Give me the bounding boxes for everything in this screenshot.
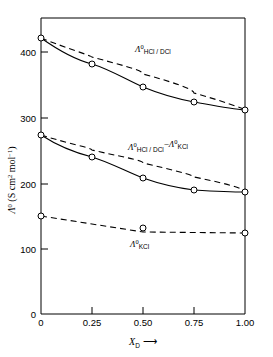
conductivity-plot: 400 300 200 100 0 0 0.25 0.50 0.75 1.00 …	[0, 0, 273, 357]
plot-frame	[41, 18, 245, 314]
y-tick-label-300: 300	[20, 113, 36, 124]
data-point-marker	[38, 132, 44, 138]
data-point-marker	[242, 189, 248, 195]
annotation-kcl: Λ0KCl	[129, 238, 150, 250]
x-tick-label-100: 1.00	[236, 317, 255, 328]
y-axis-unit-mid: mol	[6, 157, 17, 175]
y-axis-title: Λ0 (S cm2 mol−1)	[6, 147, 19, 215]
y-axis-unit-sup2: −1	[6, 150, 13, 157]
data-point-marker	[140, 225, 146, 231]
data-point-marker	[140, 84, 146, 90]
series-difference-ideal	[41, 135, 245, 192]
x-tick-label-0: 0	[38, 317, 43, 328]
difference-ideal-line	[41, 135, 245, 192]
svg-text:Λ0HCl / DCl−Λ0KCl: Λ0HCl / DCl−Λ0KCl	[127, 138, 189, 153]
y-tick-labels: 400 300 200 100 0	[20, 47, 36, 320]
data-point-marker	[89, 61, 95, 67]
x-axis-arrow: ⟶	[143, 336, 157, 347]
annot2-subscript: HCl / DCl	[137, 146, 165, 153]
data-point-marker	[38, 35, 44, 41]
x-axis-subscript: D	[135, 342, 140, 349]
chart-figure: 400 300 200 100 0 0 0.25 0.50 0.75 1.00 …	[0, 0, 273, 357]
x-tick-label-025: 0.25	[83, 317, 102, 328]
y-tick-label-100: 100	[20, 244, 36, 255]
data-point-marker	[191, 99, 197, 105]
annot2-subscript2: KCl	[178, 143, 189, 150]
y-axis-unit-open: (S cm	[6, 178, 18, 204]
y-axis-ticks	[41, 52, 48, 249]
svg-text:Λ0KCl: Λ0KCl	[129, 238, 150, 250]
svg-text:Λ0HCl / DCl: Λ0HCl / DCl	[134, 43, 171, 55]
x-axis-ticks	[92, 307, 194, 314]
series-difference-measured	[38, 132, 248, 195]
data-point-marker	[242, 230, 248, 236]
y-tick-label-200: 200	[20, 179, 36, 190]
y-axis-unit-close: )	[6, 147, 18, 150]
annotation-difference: Λ0HCl / DCl−Λ0KCl	[127, 138, 189, 153]
svg-text:XD⟶: XD⟶	[128, 336, 157, 349]
annotation-hcl-dcl: Λ0HCl / DCl	[134, 43, 171, 55]
annot1-subscript: HCl / DCl	[144, 48, 172, 55]
svg-text:Λ0 (S cm2 mol−1): Λ0 (S cm2 mol−1)	[6, 147, 19, 215]
data-point-marker	[89, 154, 95, 160]
data-point-marker	[38, 213, 44, 219]
frame-box	[41, 18, 245, 314]
data-point-marker	[191, 187, 197, 193]
y-tick-label-400: 400	[20, 47, 36, 58]
x-tick-labels: 0 0.25 0.50 0.75 1.00	[38, 317, 254, 328]
series-kcl	[38, 213, 248, 236]
data-point-marker	[140, 175, 146, 181]
x-tick-label-075: 0.75	[185, 317, 204, 328]
annot3-subscript: KCl	[139, 243, 150, 250]
y-tick-label-0: 0	[31, 309, 36, 320]
y-axis-lambda: Λ	[6, 207, 17, 214]
x-axis-title: XD⟶	[128, 336, 157, 349]
x-tick-label-050: 0.50	[134, 317, 153, 328]
data-point-marker	[242, 107, 248, 113]
